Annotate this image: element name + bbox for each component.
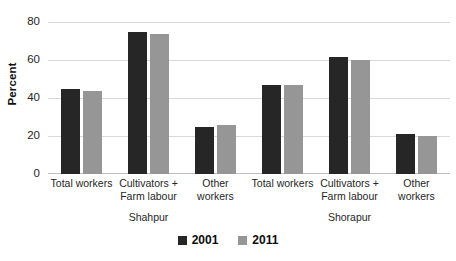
bar-2011 xyxy=(150,34,169,174)
bar-groups xyxy=(48,22,450,174)
bar-2011 xyxy=(284,85,303,174)
x-axis-label: Other workers xyxy=(182,177,249,203)
bar-2011 xyxy=(83,91,102,174)
chart-legend: 20012011 xyxy=(0,234,456,246)
bar-2001 xyxy=(262,85,281,174)
x-axis-label: Total workers xyxy=(48,177,115,203)
bar-2011 xyxy=(418,136,437,174)
bar-group xyxy=(115,22,182,174)
legend-swatch-icon xyxy=(178,236,187,245)
y-tick-label-80: 80 xyxy=(0,16,40,28)
bar-2001 xyxy=(195,127,214,175)
x-axis-label: Cultivators +Farm labour xyxy=(316,177,383,203)
bar-2001 xyxy=(329,57,348,174)
y-axis-ticks: 80 60 40 20 0 xyxy=(0,22,48,174)
legend-label: 2001 xyxy=(192,234,219,246)
legend-label: 2011 xyxy=(252,234,278,246)
plot-area xyxy=(48,22,450,174)
y-tick-label-60: 60 xyxy=(0,54,40,66)
bar-chart: Percent 80 60 40 20 0 Total workersCulti… xyxy=(0,0,456,261)
bar-2001 xyxy=(396,134,415,174)
panel-label: Shorapur xyxy=(249,211,450,223)
x-axis-label: Cultivators +Farm labour xyxy=(115,177,182,203)
bar-2001 xyxy=(61,89,80,175)
legend-swatch-icon xyxy=(238,236,247,245)
x-axis-label: Other workers xyxy=(383,177,450,203)
y-tick-label-20: 20 xyxy=(0,130,40,142)
x-axis-labels: Total workersCultivators +Farm labourOth… xyxy=(48,177,450,203)
bar-group xyxy=(249,22,316,174)
legend-item[interactable]: 2001 xyxy=(178,234,219,246)
y-tick-label-0: 0 xyxy=(0,168,40,180)
legend-item[interactable]: 2011 xyxy=(238,234,278,246)
bar-group xyxy=(48,22,115,174)
x-axis-label: Total workers xyxy=(249,177,316,203)
bar-group xyxy=(316,22,383,174)
bar-2011 xyxy=(351,60,370,174)
bar-2011 xyxy=(217,125,236,174)
panel-labels: ShahpurShorapur xyxy=(48,211,450,223)
panel-label: Shahpur xyxy=(48,211,249,223)
bar-group xyxy=(182,22,249,174)
bar-2001 xyxy=(128,32,147,175)
bar-group xyxy=(383,22,450,174)
y-tick-label-40: 40 xyxy=(0,92,40,104)
